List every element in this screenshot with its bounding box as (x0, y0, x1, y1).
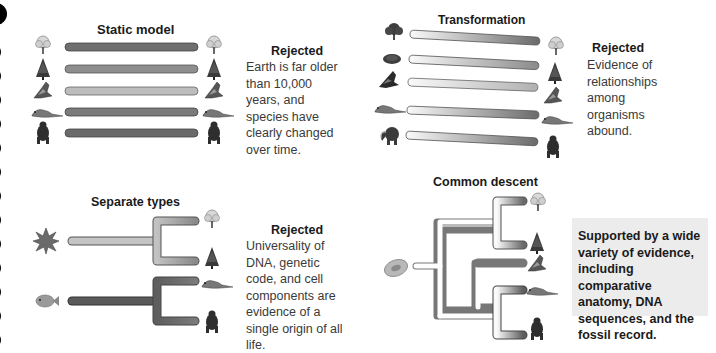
static-bar-1 (65, 43, 198, 51)
separate-types-panel (33, 210, 233, 333)
conifer-icon (36, 58, 50, 80)
static-bar-4 (65, 108, 198, 116)
static-model-panel (32, 36, 234, 144)
conifer-icon (548, 62, 562, 84)
fish-icon (36, 295, 59, 307)
transformation-panel (375, 23, 573, 158)
lizard-icon (203, 110, 234, 118)
separate-types-title: Separate types (91, 195, 180, 209)
lizard-icon (542, 117, 573, 125)
gorilla-icon (206, 311, 218, 334)
static-bar-2 (65, 65, 198, 73)
lizard-icon (32, 110, 63, 118)
moss-mound-icon (383, 54, 401, 64)
separate-reason: Universality of DNA, genetic code, and c… (246, 238, 352, 353)
static-reason: Earth is far older than 10,000 years, an… (246, 59, 344, 158)
deciduous-tree-icon (36, 36, 51, 54)
deciduous-tree-icon (205, 210, 220, 228)
common-descent-panel (382, 193, 558, 340)
lizard-icon (202, 281, 233, 289)
gorilla-icon (547, 136, 559, 159)
common-descent-verdict: Supported by a wide variety of evidence,… (572, 218, 708, 316)
deciduous-tree-icon (207, 36, 222, 54)
moth-icon (379, 71, 399, 88)
gorilla-icon (208, 122, 220, 145)
gorilla-icon (37, 122, 49, 145)
static-bar-5 (65, 129, 198, 137)
deciduous-tree-icon (549, 37, 564, 55)
transformation-verdict: Rejected (592, 41, 644, 55)
shrub-icon (385, 23, 403, 40)
transformation-title: Transformation (438, 13, 525, 27)
static-bar-3 (65, 87, 198, 95)
moth-icon (34, 82, 52, 98)
algae-icon (33, 228, 59, 254)
conifer-icon (205, 247, 219, 269)
lizard-icon (527, 288, 558, 296)
moth-icon (544, 87, 562, 103)
conifer-icon (530, 232, 544, 254)
transformation-reason: Evidence of relationships among organism… (587, 57, 659, 140)
deciduous-tree-icon (531, 193, 546, 211)
conifer-icon (207, 58, 221, 80)
common-descent-title: Common descent (433, 175, 538, 189)
gorilla-icon (531, 318, 543, 341)
static-model-title: Static model (97, 22, 174, 37)
moth-icon (528, 255, 546, 271)
lizard-icon (375, 106, 406, 114)
moth-icon (205, 82, 223, 98)
mammoth-icon (381, 127, 399, 145)
single-cell-icon (382, 256, 410, 279)
separate-verdict: Rejected (271, 223, 323, 237)
static-verdict: Rejected (271, 44, 323, 58)
